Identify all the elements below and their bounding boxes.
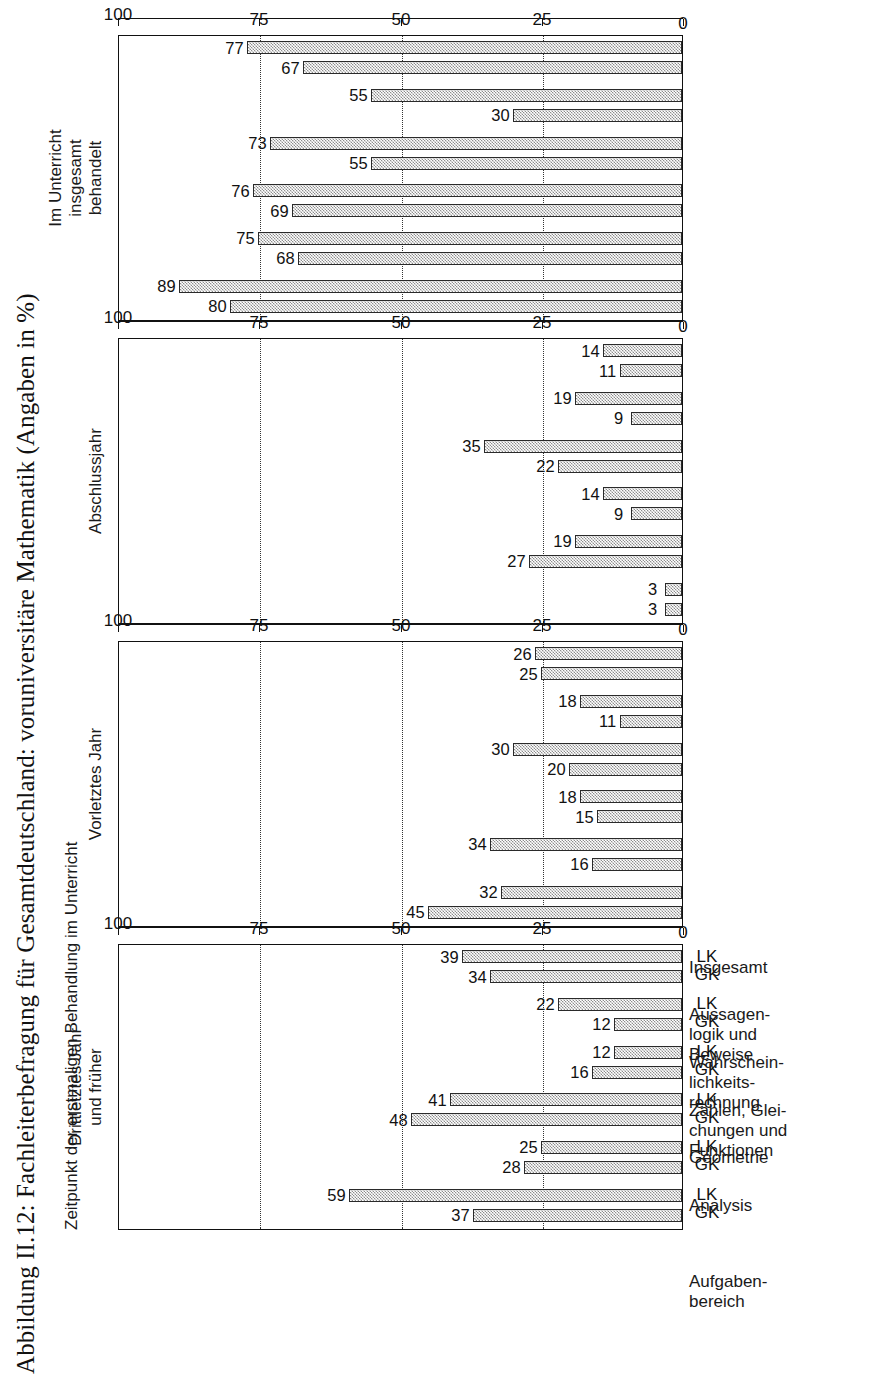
axis-title-line: bereich <box>689 1292 809 1312</box>
bar-abschlussjahr-aussagenlogikundbeweise-lk <box>575 392 682 405</box>
panel-header-line: Im Unterricht <box>46 35 66 321</box>
bar-value-label: 68 <box>276 249 294 268</box>
bar-value-label: 25 <box>519 664 537 683</box>
value-axis-tick-label: 50 <box>391 10 410 30</box>
bar-value-label: 3 <box>648 600 657 619</box>
bar-value-label: 22 <box>536 995 554 1014</box>
bar-vorletztes-jahr-wahrscheinlichkeitsrechnung-gk <box>569 763 682 776</box>
value-axis-tick-label: 0 <box>678 620 687 640</box>
value-axis-tick-label: 75 <box>250 616 269 636</box>
gridline-25 <box>543 642 544 926</box>
bar-value-label: 18 <box>559 787 577 806</box>
bar-abschlussjahr-zahlengleichungenundfunktionen-gk <box>631 507 682 520</box>
bar-value-label: 41 <box>429 1090 447 1109</box>
bar-drittletztes-jahr-und-frueher-wahrscheinlichkeitsrechnung-gk <box>592 1066 682 1079</box>
panel-abschlussjahr: 33271991422359191114 <box>118 338 683 624</box>
bar-vorletztes-jahr-wahrscheinlichkeitsrechnung-lk <box>513 743 683 756</box>
panel-header-vorletztes-jahr: Vorletztes Jahr <box>86 641 106 927</box>
bar-value-label: 69 <box>270 201 288 220</box>
bar-drittletztes-jahr-und-frueher-geometrie-gk <box>524 1161 682 1174</box>
gridline-75 <box>260 36 261 320</box>
bar-value-label: 20 <box>547 760 565 779</box>
value-axis-tick-label: 75 <box>250 313 269 333</box>
gridline-25 <box>543 945 544 1229</box>
bar-value-label: 55 <box>350 154 368 173</box>
bar-vorletztes-jahr-aussagenlogikundbeweise-lk <box>580 695 682 708</box>
category-label-line: Aussagen- <box>689 1006 809 1026</box>
bar-value-label: 18 <box>559 692 577 711</box>
bar-value-label: 15 <box>576 807 594 826</box>
bar-drittletztes-jahr-und-frueher-insgesamt-gk <box>490 970 682 983</box>
bar-im-unterricht-insgesamt-behandelt-aussagenlogikundbeweise-gk <box>513 109 683 122</box>
bar-value-label: 28 <box>502 1158 520 1177</box>
value-axis-tick-label: 75 <box>250 10 269 30</box>
bar-drittletztes-jahr-und-frueher-zahlengleichungenundfunktionen-gk <box>411 1113 682 1126</box>
bar-value-label: 32 <box>480 883 498 902</box>
bar-drittletztes-jahr-und-frueher-analysis-lk <box>349 1189 682 1202</box>
axis-title-aufgabenbereich: Aufgaben-bereich <box>689 1272 809 1312</box>
value-axis-tick-label: 100 <box>104 611 132 631</box>
gridline-25 <box>543 36 544 320</box>
rotated-figure-canvas: Abbildung II.12: Fachleiterbefragung für… <box>0 0 870 1382</box>
bar-drittletztes-jahr-und-frueher-aussagenlogikundbeweise-gk <box>614 1018 682 1031</box>
bar-value-label: 37 <box>451 1206 469 1225</box>
panel-header-line: Drittletztes Jahr <box>66 944 86 1230</box>
bar-value-label: 14 <box>581 341 599 360</box>
bar-value-label: 76 <box>231 181 249 200</box>
category-label-line: lichkeits- <box>689 1073 809 1093</box>
bar-value-label: 89 <box>157 277 175 296</box>
bar-value-label: 11 <box>599 712 616 731</box>
bar-value-label: 11 <box>599 361 616 380</box>
value-axis-tick-label: 25 <box>532 313 551 333</box>
bar-im-unterricht-insgesamt-behandelt-analysis-lk <box>179 280 682 293</box>
bar-value-label: 55 <box>350 86 368 105</box>
bar-value-label: 19 <box>553 389 571 408</box>
gridline-75 <box>260 642 261 926</box>
bar-vorletztes-jahr-insgesamt-lk <box>535 647 682 660</box>
bar-value-label: 67 <box>282 58 300 77</box>
bar-vorletztes-jahr-geometrie-lk <box>490 838 682 851</box>
bar-drittletztes-jahr-und-frueher-insgesamt-lk <box>462 950 682 963</box>
bar-abschlussjahr-analysis-gk <box>665 603 682 616</box>
gridline-75 <box>260 945 261 1229</box>
bar-abschlussjahr-geometrie-gk <box>529 555 682 568</box>
bar-value-label: 73 <box>248 134 266 153</box>
bar-abschlussjahr-insgesamt-gk <box>620 364 682 377</box>
bar-value-label: 75 <box>237 229 255 248</box>
panel-header-abschlussjahr: Abschlussjahr <box>86 338 106 624</box>
bar-value-label: 22 <box>536 457 554 476</box>
panel-drittletztes-jahr-und-frueher: 375928254841161212223439 <box>118 944 683 1230</box>
gridline-50 <box>402 36 403 320</box>
bar-value-label: 26 <box>513 644 531 663</box>
bar-drittletztes-jahr-und-frueher-wahrscheinlichkeitsrechnung-lk <box>614 1046 682 1059</box>
bar-im-unterricht-insgesamt-behandelt-wahrscheinlichkeitsrechnung-lk <box>270 137 682 150</box>
bar-value-label: 30 <box>491 740 509 759</box>
bar-vorletztes-jahr-zahlengleichungenundfunktionen-gk <box>597 810 682 823</box>
category-label-analysis: Analysis <box>689 1196 809 1216</box>
bar-vorletztes-jahr-aussagenlogikundbeweise-gk <box>620 715 682 728</box>
value-axis-drittletztes-jahr-und-frueher: 0255075100 <box>118 927 683 928</box>
gridline-75 <box>260 339 261 623</box>
panel-header-line: Abschlussjahr <box>86 338 106 624</box>
bar-value-label: 30 <box>491 106 509 125</box>
bar-im-unterricht-insgesamt-behandelt-analysis-gk <box>230 300 682 313</box>
gridline-50 <box>402 945 403 1229</box>
bar-abschlussjahr-aussagenlogikundbeweise-gk <box>631 412 682 425</box>
value-axis-tick-label: 50 <box>391 919 410 939</box>
bar-im-unterricht-insgesamt-behandelt-wahrscheinlichkeitsrechnung-gk <box>371 157 682 170</box>
bar-im-unterricht-insgesamt-behandelt-aussagenlogikundbeweise-lk <box>371 89 682 102</box>
bar-vorletztes-jahr-analysis-lk <box>501 886 682 899</box>
value-axis-tick-label: 0 <box>678 923 687 943</box>
bar-value-label: 12 <box>593 1015 611 1034</box>
bar-im-unterricht-insgesamt-behandelt-insgesamt-lk <box>247 41 682 54</box>
bar-value-label: 12 <box>593 1043 611 1062</box>
bar-value-label: 25 <box>519 1138 537 1157</box>
bar-abschlussjahr-wahrscheinlichkeitsrechnung-lk <box>484 440 682 453</box>
bar-value-label: 59 <box>327 1186 345 1205</box>
value-axis-tick-label: 25 <box>532 10 551 30</box>
panel-im-unterricht-insgesamt-behandelt: 808968756976557330556777 <box>118 35 683 321</box>
value-axis-tick-label: 75 <box>250 919 269 939</box>
category-label-line: Insgesamt <box>689 958 809 978</box>
bar-value-label: 35 <box>463 437 481 456</box>
value-axis-tick-label: 25 <box>532 616 551 636</box>
